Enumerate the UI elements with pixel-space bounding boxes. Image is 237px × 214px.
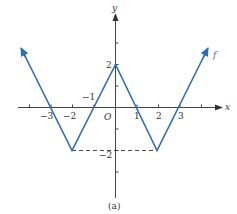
tick-label-x-2: 2 — [156, 111, 162, 121]
y-axis-label: y — [111, 3, 118, 13]
tick-label-x-1: 1 — [134, 111, 140, 121]
origin-label: O — [104, 112, 112, 122]
tick-label-x-minus-3: −3 — [40, 111, 54, 121]
curve-f — [22, 50, 207, 151]
left-arrow-icon — [21, 48, 26, 58]
tick-label-x-minus-1: −1 — [82, 92, 95, 102]
tick-label-y-2: 2 — [106, 60, 112, 70]
curve-label: f — [212, 50, 218, 60]
tick-label-y-minus-2: −2 — [99, 150, 112, 160]
figure-caption: (a) — [108, 201, 120, 211]
tick-label-x-3: 3 — [178, 111, 184, 121]
x-axis-label: x — [225, 102, 230, 112]
function-graph: y x f O −3 −2 −1 1 2 3 2 −2 (a) — [0, 0, 237, 214]
right-arrow-icon — [203, 48, 208, 58]
tick-label-x-minus-2: −2 — [63, 111, 76, 121]
